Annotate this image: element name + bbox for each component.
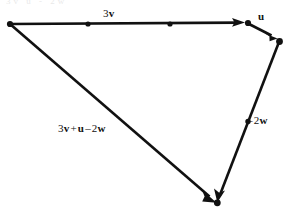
vector-resultant — [10, 24, 217, 203]
label-u: u — [258, 11, 264, 22]
node-dot-terminus — [214, 199, 221, 206]
label-resultant-op2: – — [84, 122, 92, 134]
vector-diagram-figure: 3v u - 2w 3v — [0, 0, 290, 219]
label-resultant-expression: 3v+u–2w — [58, 123, 106, 134]
node-dot-v2 — [167, 21, 172, 26]
label-resultant-op1: + — [69, 122, 77, 134]
node-dot-v1 — [85, 21, 90, 26]
label-neg-2w: –2w — [246, 115, 268, 126]
label-neg2w-symbol: w — [259, 114, 267, 126]
label-neg2w-minus: – — [246, 114, 254, 126]
vector-u — [249, 24, 278, 41]
vector-u-shaft — [249, 24, 272, 36]
label-u-symbol: u — [258, 10, 264, 22]
label-3v: 3v — [103, 8, 114, 19]
vector-canvas — [0, 0, 290, 219]
label-3v-symbol: v — [109, 7, 115, 19]
node-dot-3v-head — [245, 20, 251, 26]
label-resultant-s3: w — [98, 122, 106, 134]
vector-3v — [10, 18, 245, 27]
vector-3v-shaft — [10, 23, 238, 24]
node-dot-start — [7, 21, 13, 27]
node-dot-u-head — [276, 38, 283, 45]
vector-resultant-shaft — [10, 24, 210, 197]
